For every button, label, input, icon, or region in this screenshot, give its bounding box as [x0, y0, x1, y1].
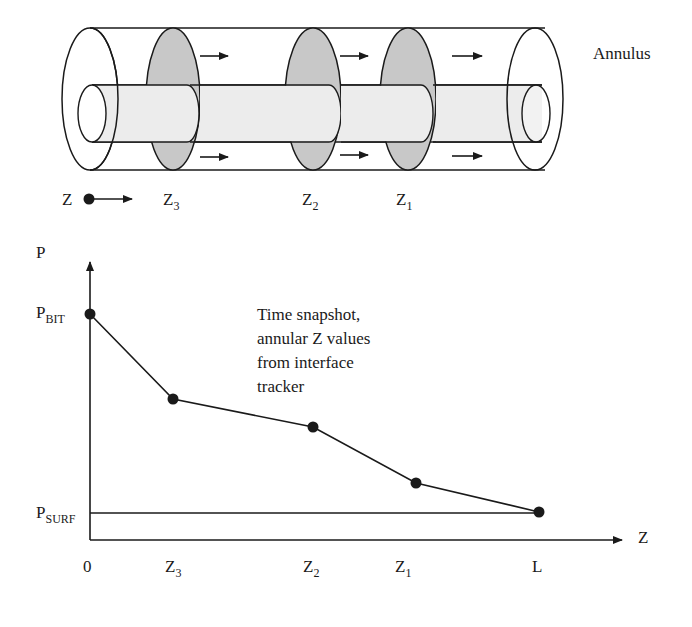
- annulus-diagram: Annulus Z Z3 Z2 Z1: [62, 28, 651, 213]
- chart-annotation: Time snapshot, annular Z values from int…: [257, 305, 375, 396]
- x-axis-label: Z: [638, 528, 648, 547]
- y-axis-label: P: [36, 243, 45, 262]
- interface-label-z1: Z1: [396, 190, 412, 213]
- interface-label-z2: Z2: [302, 190, 318, 213]
- x-tick-z2: Z2: [303, 557, 319, 580]
- z-direction-label: Z: [62, 190, 72, 209]
- pressure-chart: P Z PBIT PSURF 0 Z3 Z2 Z1 L Time snapsho…: [36, 243, 648, 580]
- data-point-l: [534, 507, 545, 518]
- annulus-label: Annulus: [593, 44, 651, 63]
- x-tick-zero: 0: [83, 557, 92, 576]
- data-point-z1: [411, 478, 422, 489]
- y-tick-p-surf: PSURF: [36, 503, 76, 526]
- x-tick-l: L: [532, 557, 542, 576]
- data-point-pbit: [85, 309, 96, 320]
- inner-pipe-right-end: [522, 85, 550, 142]
- y-tick-p-bit: PBIT: [36, 303, 65, 326]
- x-tick-z1: Z1: [395, 557, 411, 580]
- x-tick-z3: Z3: [165, 557, 181, 580]
- data-point-z2: [308, 422, 319, 433]
- inner-pipe-left-end: [78, 85, 106, 142]
- interface-label-z3: Z3: [163, 190, 179, 213]
- data-point-z3: [168, 394, 179, 405]
- figure-canvas: Annulus Z Z3 Z2 Z1 P Z PBIT PSURF 0 Z3 Z…: [0, 0, 692, 627]
